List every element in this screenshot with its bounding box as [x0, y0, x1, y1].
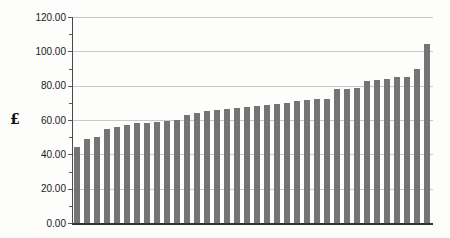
gridline [73, 17, 433, 18]
y-tick-label: 20.00 [0, 183, 66, 194]
bar [284, 103, 290, 223]
y-tick-label: 0.00 [0, 218, 66, 229]
gridline [73, 51, 433, 52]
bar [324, 99, 330, 223]
bar [144, 123, 150, 223]
bar [124, 125, 130, 223]
bar [364, 81, 370, 223]
bar [254, 106, 260, 223]
bar [424, 44, 430, 223]
bar [184, 115, 190, 223]
y-tick-label: 100.00 [0, 46, 66, 57]
y-tick-label: 40.00 [0, 149, 66, 160]
bar [414, 69, 420, 223]
bar [244, 107, 250, 223]
bar [174, 120, 180, 223]
bar [194, 113, 200, 223]
bar [334, 89, 340, 223]
bar [344, 89, 350, 223]
bar [134, 123, 140, 223]
bar [404, 77, 410, 223]
bar [94, 137, 100, 223]
bar [274, 104, 280, 223]
bar [304, 100, 310, 223]
bar [314, 99, 320, 223]
y-tick-label: 80.00 [0, 80, 66, 91]
plot-area [72, 17, 433, 225]
bar [224, 109, 230, 223]
bar [394, 77, 400, 223]
bar [234, 108, 240, 223]
y-tick-label: 120.00 [0, 12, 66, 23]
bar [154, 122, 160, 223]
bar [84, 139, 90, 223]
bar [374, 80, 380, 223]
bar [164, 121, 170, 223]
bar [384, 79, 390, 223]
bar [294, 101, 300, 223]
y-tick-label: 60.00 [0, 115, 66, 126]
bar [74, 147, 80, 223]
bar [354, 88, 360, 223]
bar [214, 110, 220, 223]
bar [114, 127, 120, 223]
bar [204, 111, 210, 223]
bar-chart: £ 0.0020.0040.0060.0080.00100.00120.00 [0, 0, 450, 238]
bar [264, 105, 270, 223]
bar [104, 129, 110, 223]
